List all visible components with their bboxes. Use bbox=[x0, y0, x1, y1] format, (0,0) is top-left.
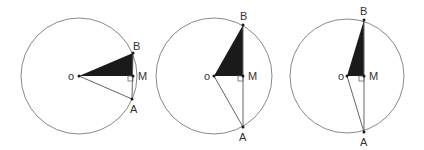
point-b bbox=[363, 19, 366, 22]
label-b: B bbox=[133, 40, 140, 52]
label-b: B bbox=[360, 5, 367, 17]
label-b: B bbox=[240, 10, 247, 22]
label-a: A bbox=[360, 136, 368, 148]
point-a bbox=[363, 131, 366, 134]
label-a: A bbox=[130, 103, 138, 115]
point-m bbox=[363, 75, 366, 78]
label-m: M bbox=[248, 70, 257, 82]
segment-oa bbox=[214, 76, 243, 127]
shaded-triangle-obm bbox=[79, 53, 133, 76]
label-m: M bbox=[138, 70, 147, 82]
figure-2: o B M A bbox=[156, 10, 272, 143]
label-o: o bbox=[68, 70, 74, 82]
circle-chord-diagram: o B M A o B M A o B M A bbox=[0, 0, 424, 150]
label-a: A bbox=[239, 131, 247, 143]
segment-oa bbox=[79, 76, 132, 99]
point-m bbox=[132, 75, 135, 78]
shaded-triangle-obm bbox=[347, 20, 364, 76]
point-b bbox=[242, 24, 245, 27]
shaded-triangle-obm bbox=[214, 25, 243, 76]
point-a bbox=[242, 126, 245, 129]
label-o: o bbox=[204, 70, 210, 82]
label-o: o bbox=[338, 70, 344, 82]
label-m: M bbox=[369, 70, 378, 82]
point-o bbox=[213, 75, 216, 78]
point-o bbox=[346, 75, 349, 78]
figure-1: o B M A bbox=[21, 18, 147, 134]
point-a bbox=[131, 98, 134, 101]
point-m bbox=[242, 75, 245, 78]
segment-oa bbox=[347, 76, 364, 132]
figure-3: o B M A bbox=[290, 5, 404, 148]
point-o bbox=[78, 75, 81, 78]
